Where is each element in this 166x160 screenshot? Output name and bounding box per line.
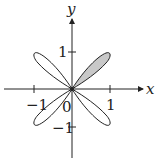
y-axis-label: y — [66, 0, 76, 18]
tick-label-y-neg1: −1 — [52, 119, 74, 137]
tick-label-x-pos1: 1 — [106, 96, 116, 114]
petal-q4 — [72, 89, 110, 125]
polar-rose-diagram: x y −1 1 1 −1 0 — [0, 0, 166, 160]
tick-label-y-pos1: 1 — [58, 43, 68, 61]
origin-label: 0 — [62, 98, 72, 116]
origin-point — [70, 87, 74, 91]
petal-q1-shaded — [72, 53, 110, 89]
x-axis-label: x — [146, 80, 155, 98]
tick-label-x-neg1: −1 — [26, 96, 48, 114]
